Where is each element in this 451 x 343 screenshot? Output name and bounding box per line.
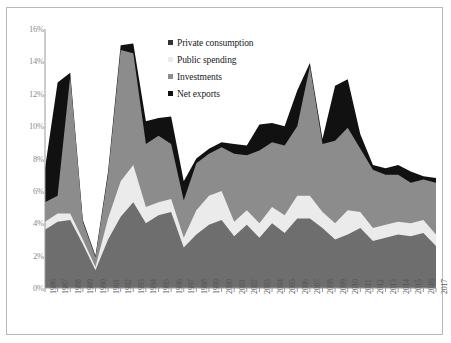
x-axis-tick-label: 2008 (326, 279, 335, 294)
x-axis-tick-label: 1988 (74, 279, 83, 294)
x-axis-tick-label: 1986 (49, 279, 58, 294)
x-axis-tick-label: 1994 (149, 279, 158, 294)
x-axis-tick-label: 2004 (276, 279, 285, 294)
x-axis-tick-label: 1993 (137, 279, 146, 294)
legend-item: Public spending (168, 51, 253, 68)
x-axis-tick-label: 2000 (225, 279, 234, 294)
x-axis-tick-label: 1995 (162, 279, 171, 294)
x-axis-tick-label: 2011 (364, 279, 373, 294)
legend-label: Private consumption (177, 38, 253, 48)
x-axis-tick-label: 2010 (351, 279, 360, 294)
x-axis-tick-label: 2012 (376, 279, 385, 294)
legend-swatch-icon (168, 57, 173, 62)
chart-legend: Private consumptionPublic spendingInvest… (168, 34, 253, 102)
x-axis-tick-label: 2001 (238, 279, 247, 294)
x-axis-tick-label: 1998 (200, 279, 209, 294)
legend-label: Investments (177, 72, 222, 82)
x-axis-tick-label: 2014 (402, 279, 411, 294)
x-axis-tick-label: 2002 (250, 279, 259, 294)
x-axis-tick-label: 1999 (212, 279, 221, 294)
x-axis-tick-label: 1990 (99, 279, 108, 294)
legend-label: Net exports (177, 89, 220, 99)
x-axis-tick-label: 2005 (288, 279, 297, 294)
legend-swatch-icon (168, 91, 173, 96)
x-axis-tick-label: 2016 (427, 279, 436, 294)
legend-swatch-icon (168, 40, 173, 45)
x-axis-tick-label: 1997 (187, 279, 196, 294)
x-axis-tick-label: 1989 (86, 279, 95, 294)
x-axis-tick-label: 1987 (61, 279, 70, 294)
x-axis-tick-label: 1996 (175, 279, 184, 294)
legend-item: Investments (168, 68, 253, 85)
legend-item: Private consumption (168, 34, 253, 51)
legend-item: Net exports (168, 85, 253, 102)
x-axis-tick-label: 1991 (112, 279, 121, 294)
x-axis-tick-label: 2015 (414, 279, 423, 294)
x-axis-tick-label: 2013 (389, 279, 398, 294)
x-axis-tick-label: 2006 (301, 279, 310, 294)
x-axis-tick-label: 2007 (313, 279, 322, 294)
x-axis-tick-label: 2017 (440, 279, 449, 294)
x-axis-tick-label: 2009 (339, 279, 348, 294)
legend-swatch-icon (168, 74, 173, 79)
legend-label: Public spending (177, 55, 236, 65)
x-axis-tick-label: 2003 (263, 279, 272, 294)
x-axis-tick-label: 1992 (124, 279, 133, 294)
